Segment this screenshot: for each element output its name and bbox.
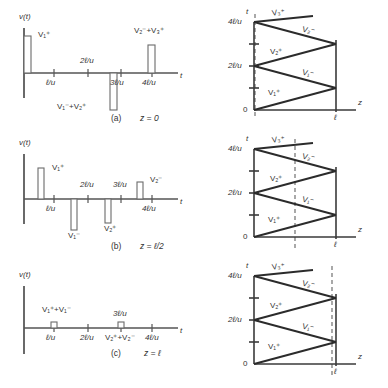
panel-b-waveform: v(t) t ℓ/u 2ℓ/u 3ℓ/u 4ℓ/u V₁⁺ V₁⁻ V₂⁺ V₂…	[0, 129, 196, 258]
panel-c-bounce-wave-label-1: V₁⁺	[268, 343, 280, 351]
panel-b-waveform-svg	[0, 129, 196, 258]
panel-a-bounce-t-tick-2: 4ℓ/u	[228, 18, 242, 26]
panel-c-bounce-svg	[196, 258, 388, 388]
panel-a-tick-label-1: ℓ/u	[46, 79, 55, 87]
panel-b-bounce-z-label: z	[358, 226, 362, 234]
panel-b-bounce-t-tick-1: 2ℓ/u	[228, 189, 242, 197]
panel-a-bounce-t-tick-1: 2ℓ/u	[228, 62, 242, 70]
panel-b-bounce-wave-label-3: V₂⁺	[270, 175, 282, 183]
panel-c-pulse-label-2: V₂⁺+V₂⁻	[105, 334, 135, 342]
panel-b-pulse-label-2: V₁⁻	[68, 232, 80, 240]
panel-a-bounce-t-label: t	[246, 8, 248, 16]
panel-a-caption-label: (a)	[111, 113, 121, 123]
panel-b-bounce-svg	[196, 129, 388, 258]
panel-a-x-axis-label: t	[180, 72, 182, 80]
panel-a-bounce-wave-label-3: V₂⁺	[270, 48, 282, 56]
panel-a-tick-label-2: 2ℓ/u	[80, 57, 94, 65]
panel-a-tick-label-3: 3ℓ/u	[110, 79, 124, 87]
panel-b-bounce-z-end-label: ℓ	[334, 241, 337, 249]
figure-canvas: v(t) t ℓ/u 2ℓ/u 3ℓ/u 4ℓ/u V₁⁺ V₁⁻+V₂⁺ V₂…	[0, 0, 388, 388]
panel-b-tick-label-4: 4ℓ/u	[142, 205, 156, 213]
panel-b-bounce-origin-label: 0	[243, 233, 247, 241]
panel-a-y-axis-label: v(t)	[19, 12, 31, 21]
panel-b-y-axis-label: v(t)	[19, 138, 31, 147]
panel-a-bounce-origin-label: 0	[243, 106, 247, 114]
panel-b-caption-condition: z = ℓ/2	[140, 241, 164, 251]
panel-c-bounce: t z 0 ℓ 2ℓ/u 4ℓ/u V₁⁺ V₁⁻ V₂⁺ V₂⁻ V₃⁺	[196, 258, 388, 387]
panel-a-bounce-wave-label-1: V₁⁺	[268, 89, 280, 97]
panel-b: v(t) t ℓ/u 2ℓ/u 3ℓ/u 4ℓ/u V₁⁺ V₁⁻ V₂⁺ V₂…	[0, 129, 388, 258]
panel-a-bounce-z-label: z	[358, 99, 362, 107]
panel-c-caption-condition: z = ℓ	[144, 348, 161, 358]
panel-c-waveform: v(t) t ℓ/u 2ℓ/u 3ℓ/u 4ℓ/u V₁⁺+V₁⁻ V₂⁺+V₂…	[0, 258, 196, 387]
panel-b-tick-label-3: 3ℓ/u	[113, 181, 127, 189]
panel-b-bounce-t-tick-2: 4ℓ/u	[228, 145, 242, 153]
panel-a: v(t) t ℓ/u 2ℓ/u 3ℓ/u 4ℓ/u V₁⁺ V₁⁻+V₂⁺ V₂…	[0, 0, 388, 129]
panel-a-bounce-z-end-label: ℓ	[334, 114, 337, 122]
panel-a-bounce: t z 0 ℓ 2ℓ/u 4ℓ/u V₁⁺ V₁⁻ V₂⁺ V₂⁻ V₃⁺	[196, 0, 388, 129]
panel-c: v(t) t ℓ/u 2ℓ/u 3ℓ/u 4ℓ/u V₁⁺+V₁⁻ V₂⁺+V₂…	[0, 258, 388, 387]
panel-c-bounce-z-label: z	[358, 353, 362, 361]
panel-c-tick-label-3: 3ℓ/u	[113, 310, 127, 318]
panel-b-bounce: t z 0 ℓ 2ℓ/u 4ℓ/u V₁⁺ V₁⁻ V₂⁺ V₂⁻ V₃⁺	[196, 129, 388, 258]
panel-b-pulse-label-4: V₂⁻	[150, 176, 162, 184]
panel-a-caption-condition: z = 0	[140, 113, 159, 123]
panel-c-tick-label-2: 2ℓ/u	[80, 334, 94, 342]
panel-c-bounce-wave-label-3: V₂⁺	[270, 302, 282, 310]
panel-c-bounce-t-tick-2: 4ℓ/u	[228, 272, 242, 280]
panel-c-x-axis-label: t	[180, 327, 182, 335]
panel-c-tick-label-4: 4ℓ/u	[145, 334, 159, 342]
panel-a-waveform: v(t) t ℓ/u 2ℓ/u 3ℓ/u 4ℓ/u V₁⁺ V₁⁻+V₂⁺ V₂…	[0, 0, 196, 129]
panel-c-y-axis-label: v(t)	[19, 270, 31, 279]
panel-c-bounce-t-label: t	[246, 262, 248, 270]
panel-b-bounce-wave-label-1: V₁⁺	[268, 216, 280, 224]
panel-a-pulse-label-3: V₂⁻+V₃⁺	[134, 27, 164, 35]
panel-a-pulse-label-1: V₁⁺	[38, 31, 50, 39]
panel-b-tick-label-2: 2ℓ/u	[80, 181, 94, 189]
panel-b-caption-label: (b)	[111, 241, 121, 251]
panel-b-bounce-t-label: t	[246, 135, 248, 143]
panel-c-pulse-label-1: V₁⁺+V₁⁻	[42, 306, 71, 314]
panel-c-tick-label-1: ℓ/u	[46, 334, 55, 342]
panel-a-bounce-svg	[196, 0, 388, 129]
panel-b-pulse-label-1: V₁⁺	[52, 164, 64, 172]
panel-a-pulse-label-2: V₁⁻+V₂⁺	[57, 103, 86, 111]
panel-c-bounce-z-end-label: ℓ	[334, 368, 337, 376]
panel-c-caption-label: (c)	[111, 348, 121, 358]
panel-b-pulse-label-3: V₂⁺	[104, 225, 116, 233]
panel-c-bounce-origin-label: 0	[243, 360, 247, 368]
panel-a-tick-label-4: 4ℓ/u	[142, 79, 156, 87]
panel-c-bounce-t-tick-1: 2ℓ/u	[228, 316, 242, 324]
panel-b-x-axis-label: t	[180, 198, 182, 206]
panel-b-tick-label-1: ℓ/u	[46, 205, 55, 213]
